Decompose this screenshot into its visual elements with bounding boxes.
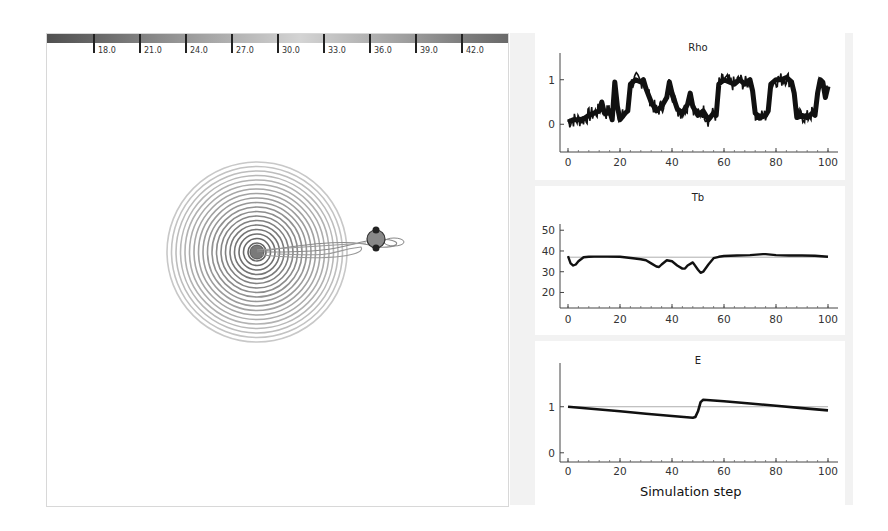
y-tick-label: 20 xyxy=(542,286,555,298)
e-chart: E02040608010001 xyxy=(535,341,845,505)
chart-title: Tb xyxy=(691,192,704,203)
x-tick-label: 80 xyxy=(769,313,782,325)
x-axis-label: Simulation step xyxy=(640,484,742,499)
panel-gutter xyxy=(845,33,853,505)
x-tick-label: 100 xyxy=(818,313,838,325)
x-tick-label: 60 xyxy=(717,313,730,325)
x-tick-label: 100 xyxy=(818,465,838,477)
y-tick-label: 1 xyxy=(548,74,555,86)
rho-chart: Rho02040608010001 xyxy=(535,33,845,180)
agent-sensor-icon xyxy=(373,227,380,234)
x-tick-label: 100 xyxy=(818,156,838,168)
x-tick-label: 80 xyxy=(769,156,782,168)
x-tick-label: 40 xyxy=(665,313,678,325)
y-tick-label: 40 xyxy=(542,245,555,257)
panel-gutter xyxy=(510,33,535,505)
x-tick-label: 0 xyxy=(565,465,572,477)
series-line xyxy=(568,400,828,418)
y-tick-label: 1 xyxy=(548,401,555,413)
x-tick-label: 80 xyxy=(769,465,782,477)
x-tick-label: 20 xyxy=(613,156,626,168)
chart-title: Rho xyxy=(688,42,707,53)
x-tick-label: 40 xyxy=(665,465,678,477)
agent-trail xyxy=(384,238,404,246)
x-tick-label: 20 xyxy=(613,465,626,477)
simulation-view: 18.021.024.027.030.033.036.039.042.0 xyxy=(46,33,509,507)
tb-chart: Tb02040608010020304050 xyxy=(535,186,845,335)
y-tick-label: 0 xyxy=(548,118,555,130)
x-tick-label: 40 xyxy=(665,156,678,168)
x-tick-label: 0 xyxy=(565,313,572,325)
x-tick-label: 60 xyxy=(717,156,730,168)
simulation-canvas xyxy=(47,34,508,506)
agent-sensor-icon xyxy=(373,245,380,252)
y-tick-label: 0 xyxy=(548,447,555,459)
y-tick-label: 30 xyxy=(542,266,555,278)
series-noise xyxy=(568,73,827,128)
y-tick-label: 50 xyxy=(542,224,555,236)
x-tick-label: 20 xyxy=(613,313,626,325)
x-tick-label: 0 xyxy=(565,156,572,168)
x-tick-label: 60 xyxy=(717,465,730,477)
chart-title: E xyxy=(695,355,701,366)
